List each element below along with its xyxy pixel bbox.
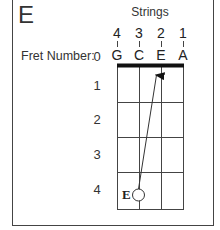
marker-label: E (122, 187, 131, 203)
nut (117, 64, 184, 68)
arrow-icon (139, 75, 157, 189)
fretboard-grid (0, 0, 220, 230)
open-circle-marker-icon (133, 189, 145, 201)
